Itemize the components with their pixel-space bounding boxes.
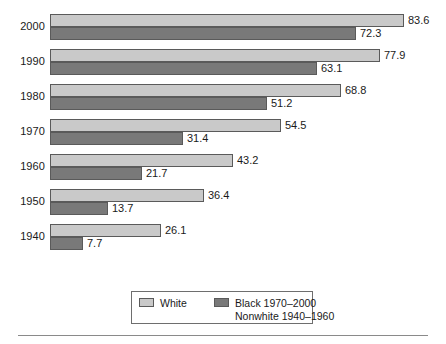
legend-swatch-white-icon (139, 298, 154, 307)
bar-value-label: 21.7 (146, 167, 167, 180)
bar-black (50, 202, 108, 215)
bar-group: 195036.413.7 (0, 189, 446, 215)
bar-value-label: 51.2 (271, 97, 292, 110)
bar-group: 200083.672.3 (0, 14, 446, 40)
legend-label-white: White (160, 297, 187, 309)
bar-chart: 200083.672.3199077.963.1198068.851.21970… (0, 0, 446, 344)
bar-white (50, 49, 380, 62)
category-label: 1950 (0, 195, 45, 208)
bar-value-label: 13.7 (112, 202, 133, 215)
bar-white (50, 224, 161, 237)
bar-black (50, 167, 142, 180)
bar-value-label: 54.5 (285, 119, 306, 132)
bar-value-label: 68.8 (345, 84, 366, 97)
plot-area: 200083.672.3199077.963.1198068.851.21970… (0, 0, 446, 290)
legend-label-black: Black 1970–2000 (235, 297, 316, 309)
category-label: 1960 (0, 160, 45, 173)
chart-legend: White Black 1970–2000 Nonwhite 1940–1960 (131, 291, 313, 324)
bar-group: 194026.17.7 (0, 224, 446, 250)
bar-black (50, 27, 356, 40)
bar-group: 197054.531.4 (0, 119, 446, 145)
legend-label-nonwhite-text: Nonwhite 1940–1960 (235, 310, 334, 322)
bar-group: 198068.851.2 (0, 84, 446, 110)
category-label: 1990 (0, 55, 45, 68)
category-label: 1980 (0, 90, 45, 103)
category-label: 2000 (0, 20, 45, 33)
bar-value-label: 36.4 (208, 189, 229, 202)
bar-black (50, 97, 267, 110)
bar-value-label: 77.9 (384, 49, 405, 62)
legend-entry-black: Black 1970–2000 (214, 297, 316, 309)
category-label: 1940 (0, 230, 45, 243)
bar-white (50, 189, 204, 202)
bar-value-label: 26.1 (165, 224, 186, 237)
bar-value-label: 7.7 (87, 237, 102, 250)
bar-group: 196043.221.7 (0, 154, 446, 180)
legend-label-nonwhite: Nonwhite 1940–1960 (214, 310, 334, 322)
category-label: 1970 (0, 125, 45, 138)
bar-value-label: 43.2 (237, 154, 258, 167)
bar-value-label: 72.3 (360, 27, 381, 40)
bar-value-label: 83.6 (408, 14, 429, 27)
bar-black (50, 132, 183, 145)
bar-value-label: 63.1 (321, 62, 342, 75)
bar-white (50, 119, 281, 132)
bar-value-label: 31.4 (187, 132, 208, 145)
bar-group: 199077.963.1 (0, 49, 446, 75)
bottom-divider (18, 335, 428, 336)
bar-white (50, 154, 233, 167)
bar-white (50, 14, 404, 27)
legend-entry-white: White (139, 297, 187, 309)
legend-swatch-black-icon (214, 298, 229, 307)
legend-row: White Black 1970–2000 Nonwhite 1940–1960 (132, 292, 314, 325)
bar-black (50, 237, 83, 250)
bar-white (50, 84, 341, 97)
bar-black (50, 62, 317, 75)
